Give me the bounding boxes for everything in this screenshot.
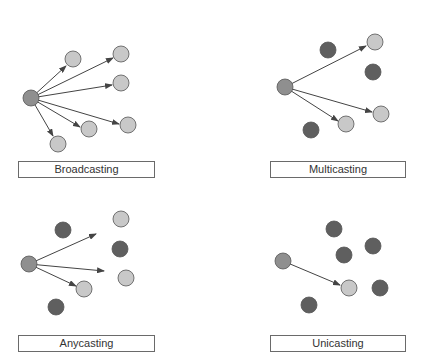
arrow-unicasting (283, 261, 340, 285)
receiver-node (341, 280, 357, 296)
receiver-node (338, 116, 354, 132)
label-broadcasting: Broadcasting (18, 161, 155, 178)
receiver-node (81, 121, 97, 137)
source-node-unicasting (275, 253, 291, 269)
receiver-node (367, 34, 383, 50)
non-member-node (55, 222, 71, 238)
source-node-broadcasting (23, 90, 39, 106)
source-node-multicasting (277, 79, 293, 95)
label-unicasting: Unicasting (270, 335, 406, 352)
receiver-node (113, 46, 129, 62)
non-member-node (320, 42, 336, 58)
arrow-broadcasting (31, 98, 80, 127)
non-member-node (336, 247, 352, 263)
non-member-node (112, 241, 128, 257)
non-member-node (365, 238, 381, 254)
non-member-node (372, 280, 388, 296)
arrow-multicasting (285, 87, 372, 112)
label-multicasting: Multicasting (270, 161, 406, 178)
non-member-node (303, 122, 319, 138)
receiver-node (120, 117, 136, 133)
arrow-anycasting (29, 234, 96, 264)
receiver-node (50, 136, 66, 152)
casting-diagram: Broadcasting Multicasting Anycasting Uni… (0, 0, 421, 357)
non-member-node (301, 297, 317, 313)
receiver-node (118, 270, 134, 286)
arrow-anycasting (29, 264, 104, 271)
non-member-node (365, 64, 381, 80)
receiver-node (113, 211, 129, 227)
label-anycasting: Anycasting (18, 335, 155, 352)
receiver-node (76, 281, 92, 297)
receiver-node (65, 51, 81, 67)
non-member-node (326, 221, 342, 237)
receiver-node (113, 75, 129, 91)
diagram-canvas (0, 0, 421, 357)
receiver-node (373, 106, 389, 122)
arrow-multicasting (285, 87, 338, 121)
non-member-node (48, 299, 64, 315)
source-node-anycasting (21, 256, 37, 272)
